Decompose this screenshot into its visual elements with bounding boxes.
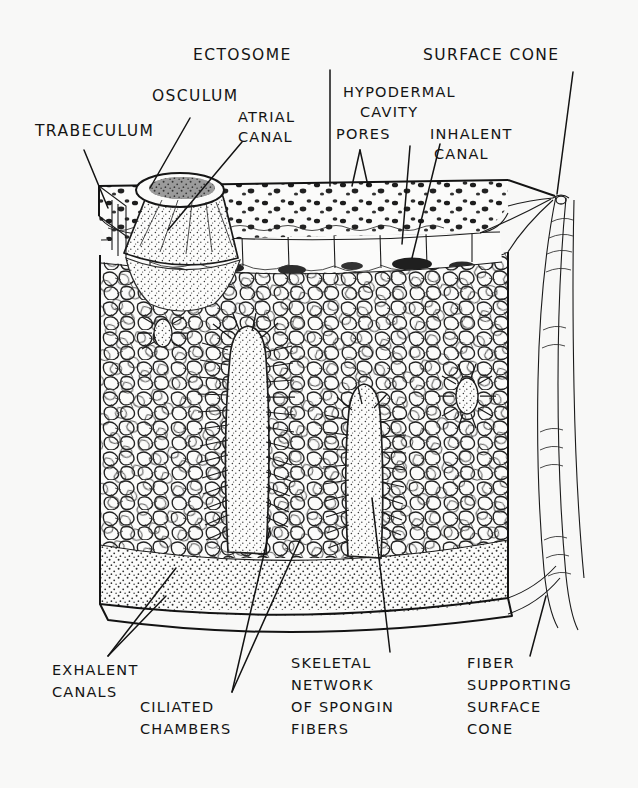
label-fiber-line4: CONE [467, 721, 513, 737]
label-pores: PORES [336, 126, 391, 142]
diagram-canvas: TRABECULUM OSCULUM ECTOSOME SURFACE CONE… [0, 0, 638, 788]
label-trabeculum: TRABECULUM [34, 122, 154, 140]
label-fiber-line3: SURFACE [467, 699, 541, 715]
label-fiber-line2: SUPPORTING [467, 677, 572, 693]
label-inhalent-line2: CANAL [434, 146, 489, 162]
label-skeletal-line2: NETWORK [291, 677, 374, 693]
label-atrial-canal-line2: CANAL [238, 129, 293, 145]
label-skeletal-line1: SKELETAL [291, 655, 371, 671]
label-skeletal-line4: FIBERS [291, 721, 349, 737]
label-skeletal-line3: OF SPONGIN [291, 699, 394, 715]
label-exhalent-line2: CANALS [52, 684, 117, 700]
label-ciliated-line2: CHAMBERS [140, 721, 231, 737]
label-atrial-canal-line1: ATRIAL [238, 109, 295, 125]
label-inhalent-line1: INHALENT [430, 126, 513, 142]
osculum-cone [124, 173, 238, 265]
label-surface-cone: SURFACE CONE [423, 46, 560, 64]
sponge-anatomy-figure: TRABECULUM OSCULUM ECTOSOME SURFACE CONE… [0, 0, 638, 788]
label-ectosome: ECTOSOME [193, 46, 292, 64]
label-hypodermal-line2: CAVITY [360, 104, 418, 120]
label-hypodermal-line1: HYPODERMAL [343, 84, 456, 100]
label-osculum: OSCULUM [152, 87, 239, 105]
label-exhalent-line1: EXHALENT [52, 662, 138, 678]
label-fiber-line1: FIBER [467, 655, 515, 671]
label-ciliated-line1: CILIATED [140, 699, 214, 715]
